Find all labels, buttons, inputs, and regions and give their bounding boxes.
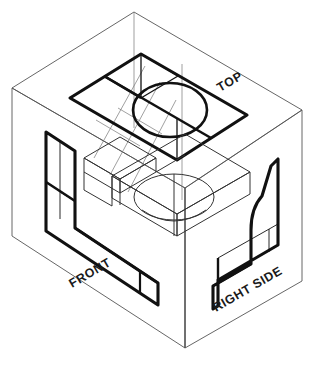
object-front-right-face: [177, 172, 250, 236]
label-top: TOP: [215, 69, 246, 95]
top-view-hole-circle: [133, 83, 207, 137]
front-view-outline: [46, 132, 158, 305]
object-step-link-2: [84, 172, 112, 206]
top-view-edge-d: [141, 54, 178, 76]
isometric-object: [84, 134, 250, 236]
top-view-edge-c: [141, 76, 178, 98]
drawing-canvas: TOP FRONT RIGHT SIDE: [0, 0, 320, 366]
isometric-projection-figure: TOP FRONT RIGHT SIDE: [0, 0, 320, 366]
object-step-right: [120, 158, 156, 193]
object-front-left-face: [112, 176, 177, 236]
box-right-face: [185, 110, 302, 348]
top-view-edge-b: [104, 76, 141, 98]
top-view-group: [70, 54, 247, 160]
front-view-thin-2: [60, 192, 75, 201]
label-right-side: RIGHT SIDE: [211, 264, 285, 315]
box-top-face: [12, 12, 302, 188]
front-view-group: [46, 132, 158, 305]
object-step-left: [84, 158, 120, 193]
